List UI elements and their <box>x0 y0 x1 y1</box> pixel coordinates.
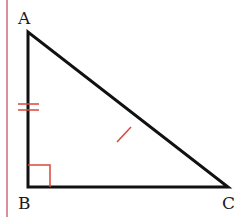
triangle-diagram: A B C <box>0 0 248 217</box>
tick-mark-ac <box>117 127 131 142</box>
vertex-label-a: A <box>17 8 31 28</box>
vertex-label-b: B <box>18 193 31 213</box>
triangle-abc <box>28 32 228 187</box>
vertex-label-c: C <box>222 193 235 213</box>
right-angle-marker <box>28 165 50 187</box>
